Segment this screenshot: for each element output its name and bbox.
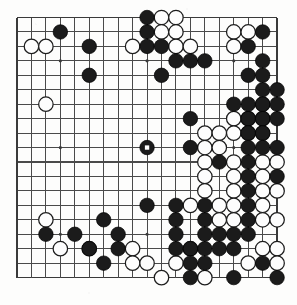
white-stone[interactable] bbox=[241, 25, 255, 39]
white-stone[interactable] bbox=[198, 184, 212, 198]
black-stone[interactable] bbox=[270, 169, 284, 183]
black-stone[interactable] bbox=[241, 198, 255, 212]
black-stone[interactable] bbox=[169, 54, 183, 68]
white-stone[interactable] bbox=[255, 155, 269, 169]
black-stone[interactable] bbox=[227, 241, 241, 255]
black-stone[interactable] bbox=[270, 97, 284, 111]
black-stone[interactable] bbox=[241, 126, 255, 140]
white-stone[interactable] bbox=[24, 39, 38, 53]
white-stone[interactable] bbox=[255, 169, 269, 183]
white-stone[interactable] bbox=[255, 198, 269, 212]
black-stone[interactable] bbox=[241, 68, 255, 82]
black-stone[interactable] bbox=[140, 10, 154, 24]
white-stone[interactable] bbox=[39, 97, 53, 111]
black-stone[interactable] bbox=[111, 241, 125, 255]
white-stone[interactable] bbox=[227, 39, 241, 53]
black-stone[interactable] bbox=[140, 25, 154, 39]
white-stone[interactable] bbox=[227, 213, 241, 227]
white-stone[interactable] bbox=[255, 184, 269, 198]
black-stone[interactable] bbox=[183, 270, 197, 284]
black-stone[interactable] bbox=[270, 111, 284, 125]
black-stone[interactable] bbox=[198, 213, 212, 227]
white-stone[interactable] bbox=[270, 256, 284, 270]
white-stone[interactable] bbox=[227, 169, 241, 183]
black-stone[interactable] bbox=[241, 169, 255, 183]
black-stone[interactable] bbox=[198, 198, 212, 212]
black-stone[interactable] bbox=[140, 39, 154, 53]
white-stone[interactable] bbox=[212, 126, 226, 140]
black-stone[interactable] bbox=[255, 126, 269, 140]
white-stone[interactable] bbox=[212, 198, 226, 212]
go-board-container[interactable] bbox=[0, 0, 297, 305]
white-stone[interactable] bbox=[198, 155, 212, 169]
white-stone[interactable] bbox=[154, 10, 168, 24]
white-stone[interactable] bbox=[39, 213, 53, 227]
black-stone[interactable] bbox=[169, 241, 183, 255]
black-stone[interactable] bbox=[241, 140, 255, 154]
white-stone[interactable] bbox=[154, 25, 168, 39]
black-stone[interactable] bbox=[96, 213, 110, 227]
black-stone[interactable] bbox=[270, 83, 284, 97]
white-stone[interactable] bbox=[255, 213, 269, 227]
black-stone[interactable] bbox=[154, 68, 168, 82]
black-stone[interactable] bbox=[96, 256, 110, 270]
white-stone[interactable] bbox=[270, 184, 284, 198]
white-stone[interactable] bbox=[183, 198, 197, 212]
white-stone[interactable] bbox=[154, 270, 168, 284]
white-stone[interactable] bbox=[227, 184, 241, 198]
black-stone[interactable] bbox=[255, 97, 269, 111]
white-stone[interactable] bbox=[198, 270, 212, 284]
white-stone[interactable] bbox=[241, 256, 255, 270]
black-stone[interactable] bbox=[241, 111, 255, 125]
black-stone[interactable] bbox=[255, 256, 269, 270]
black-stone[interactable] bbox=[241, 97, 255, 111]
black-stone[interactable] bbox=[227, 227, 241, 241]
black-stone[interactable] bbox=[169, 198, 183, 212]
white-stone[interactable] bbox=[227, 198, 241, 212]
black-stone[interactable] bbox=[241, 213, 255, 227]
black-stone[interactable] bbox=[241, 39, 255, 53]
black-stone[interactable] bbox=[82, 68, 96, 82]
black-stone[interactable] bbox=[183, 256, 197, 270]
white-stone[interactable] bbox=[125, 241, 139, 255]
black-stone[interactable] bbox=[198, 227, 212, 241]
white-stone[interactable] bbox=[227, 25, 241, 39]
white-stone[interactable] bbox=[227, 155, 241, 169]
white-stone[interactable] bbox=[169, 25, 183, 39]
black-stone[interactable] bbox=[169, 227, 183, 241]
black-stone[interactable] bbox=[82, 39, 96, 53]
black-stone[interactable] bbox=[255, 111, 269, 125]
black-stone[interactable] bbox=[255, 54, 269, 68]
black-stone[interactable] bbox=[154, 39, 168, 53]
black-stone[interactable] bbox=[241, 227, 255, 241]
black-stone[interactable] bbox=[198, 54, 212, 68]
black-stone[interactable] bbox=[212, 241, 226, 255]
white-stone[interactable] bbox=[198, 169, 212, 183]
white-stone[interactable] bbox=[270, 213, 284, 227]
black-stone[interactable] bbox=[255, 68, 269, 82]
black-stone[interactable] bbox=[241, 184, 255, 198]
black-stone[interactable] bbox=[227, 97, 241, 111]
black-stone[interactable] bbox=[227, 270, 241, 284]
black-stone[interactable] bbox=[82, 241, 96, 255]
white-stone[interactable] bbox=[198, 140, 212, 154]
black-stone[interactable] bbox=[111, 227, 125, 241]
white-stone[interactable] bbox=[212, 213, 226, 227]
white-stone[interactable] bbox=[270, 241, 284, 255]
black-stone[interactable] bbox=[255, 25, 269, 39]
white-stone[interactable] bbox=[39, 39, 53, 53]
black-stone[interactable] bbox=[255, 83, 269, 97]
go-board-svg[interactable] bbox=[0, 0, 297, 305]
white-stone[interactable] bbox=[255, 241, 269, 255]
black-stone[interactable] bbox=[241, 155, 255, 169]
white-stone[interactable] bbox=[169, 256, 183, 270]
black-stone[interactable] bbox=[68, 227, 82, 241]
white-stone[interactable] bbox=[212, 140, 226, 154]
black-stone[interactable] bbox=[183, 54, 197, 68]
white-stone[interactable] bbox=[227, 111, 241, 125]
white-stone[interactable] bbox=[198, 126, 212, 140]
white-stone[interactable] bbox=[125, 256, 139, 270]
white-stone[interactable] bbox=[125, 39, 139, 53]
black-stone[interactable] bbox=[212, 155, 226, 169]
white-stone[interactable] bbox=[227, 126, 241, 140]
